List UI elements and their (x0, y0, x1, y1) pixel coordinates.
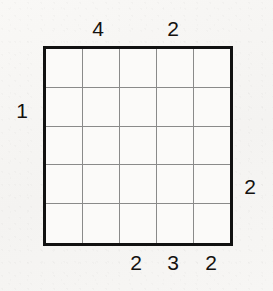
grid-cell-r4-c4[interactable] (157, 165, 194, 204)
grid-cell-r2-c3[interactable] (120, 88, 157, 127)
grid-cell-r3-c3[interactable] (120, 127, 157, 166)
puzzle-canvas: 4 2 1 2 2 3 2 (0, 0, 273, 291)
clue-left-row-2: 1 (10, 100, 34, 121)
grid-cell-r2-c5[interactable] (194, 88, 230, 127)
grid-cell-r3-c1[interactable] (46, 127, 83, 166)
grid-row (46, 49, 230, 88)
grid-cell-r3-c4[interactable] (157, 127, 194, 166)
grid-row (46, 165, 230, 204)
grid-row (46, 204, 230, 243)
grid-cell-r4-c1[interactable] (46, 165, 83, 204)
grid-cell-r4-c2[interactable] (83, 165, 120, 204)
grid-row (46, 127, 230, 166)
grid-cell-r5-c2[interactable] (83, 204, 120, 243)
grid-cell-r1-c4[interactable] (157, 49, 194, 88)
grid-cell-r2-c4[interactable] (157, 88, 194, 127)
grid-cell-r2-c1[interactable] (46, 88, 83, 127)
grid-row (46, 88, 230, 127)
clue-bottom-column-4: 3 (161, 252, 185, 273)
clue-top-column-4: 2 (161, 18, 185, 39)
puzzle-grid[interactable] (43, 46, 233, 246)
grid-cell-r2-c2[interactable] (83, 88, 120, 127)
clue-bottom-column-5: 2 (199, 252, 223, 273)
grid-cell-r5-c4[interactable] (157, 204, 194, 243)
grid-cell-r4-c3[interactable] (120, 165, 157, 204)
grid-cell-r3-c2[interactable] (83, 127, 120, 166)
grid-cell-r3-c5[interactable] (194, 127, 230, 166)
grid-cell-r5-c1[interactable] (46, 204, 83, 243)
grid-cell-r5-c5[interactable] (194, 204, 230, 243)
grid-cell-r5-c3[interactable] (120, 204, 157, 243)
clue-top-column-2: 4 (86, 18, 110, 39)
grid-cell-r1-c3[interactable] (120, 49, 157, 88)
grid-cell-r1-c1[interactable] (46, 49, 83, 88)
grid-cell-r1-c2[interactable] (83, 49, 120, 88)
grid-cell-r1-c5[interactable] (194, 49, 230, 88)
grid-cell-r4-c5[interactable] (194, 165, 230, 204)
clue-right-row-4: 2 (238, 176, 262, 197)
clue-bottom-column-3: 2 (124, 252, 148, 273)
